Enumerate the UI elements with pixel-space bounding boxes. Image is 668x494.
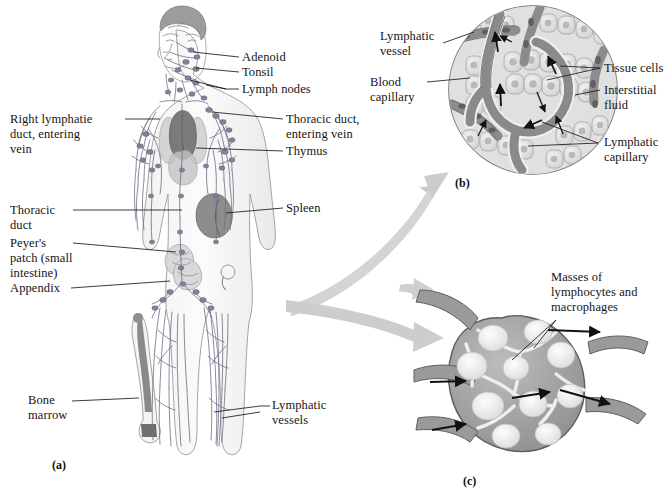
label-bone-marrow: Bone marrow bbox=[28, 393, 67, 423]
connector-arrows bbox=[286, 172, 449, 352]
label-right-lymphatic-duct: Right lymphatie duct, entering vein bbox=[10, 112, 92, 156]
panel-tag-a: (a) bbox=[52, 458, 66, 473]
label-masses-of-lymphocytes: Masses of lymphocytes and macrophages bbox=[551, 270, 638, 314]
label-adenoid: Adenoid bbox=[242, 50, 286, 65]
label-thoracic-duct: Thoracic duct bbox=[10, 203, 55, 233]
label-lymphatic-vessels: Lymphatic vessels bbox=[272, 398, 326, 428]
figure-artwork bbox=[0, 0, 668, 494]
label-interstitial-fluid: Interstitial fluid bbox=[604, 83, 657, 113]
label-thoracic-duct-entering-vein: Thoracic duct, entering vein bbox=[286, 112, 360, 142]
label-tissue-cells: Tissue cells bbox=[604, 61, 663, 76]
label-thymus: Thymus bbox=[286, 144, 328, 159]
label-peyers-patch: Peyer's patch (small intestine) bbox=[10, 236, 73, 280]
label-blood-capillary: Blood capillary bbox=[370, 75, 415, 105]
label-lymphatic-vessel: Lymphatic vessel bbox=[380, 29, 434, 59]
lymphatic-system-figure: Adenoid Tonsil Lymph nodes Thoracic duct… bbox=[0, 0, 668, 494]
panel-tag-b: (b) bbox=[455, 176, 470, 191]
label-tonsil: Tonsil bbox=[242, 65, 274, 80]
label-lymphatic-capillary: Lymphatic capillary bbox=[604, 135, 658, 165]
label-lymph-nodes: Lymph nodes bbox=[242, 82, 311, 97]
label-appendix: Appendix bbox=[10, 281, 60, 296]
label-spleen: Spleen bbox=[286, 201, 321, 216]
panel-tag-c: (c) bbox=[463, 474, 476, 489]
panel-b-illustration bbox=[427, 6, 617, 174]
